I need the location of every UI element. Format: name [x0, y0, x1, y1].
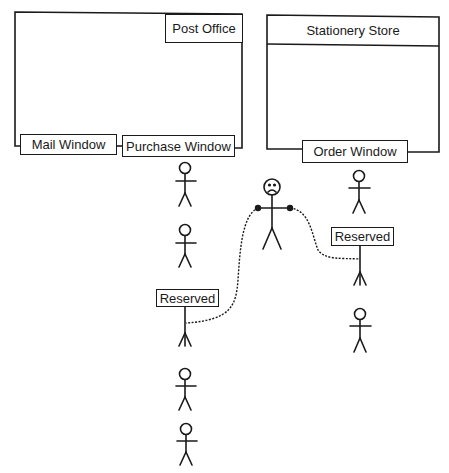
stick-figure-left-1: [176, 163, 196, 207]
order-window: Order Window: [302, 140, 408, 163]
reserved-sign-right: Reserved: [331, 227, 394, 246]
reserved-placeholder-right: [354, 245, 366, 285]
mail-window: Mail Window: [20, 134, 117, 155]
stick-figure-left-3: [176, 369, 196, 411]
reserved-placeholder-left: [179, 306, 191, 346]
stick-figure-right-1: [349, 171, 370, 214]
stationery-header-divider: [267, 44, 439, 46]
post-office-title: Post Office: [165, 14, 243, 43]
sad-stick-figure: [258, 179, 290, 249]
purchase-window: Purchase Window: [122, 135, 235, 157]
stick-figure-right-2: [350, 309, 371, 353]
stick-figure-left-2: [176, 225, 196, 268]
stationery-store-title: Stationery Store: [267, 24, 439, 37]
reserved-sign-left: Reserved: [156, 289, 219, 307]
stick-figure-left-4: [177, 424, 197, 466]
